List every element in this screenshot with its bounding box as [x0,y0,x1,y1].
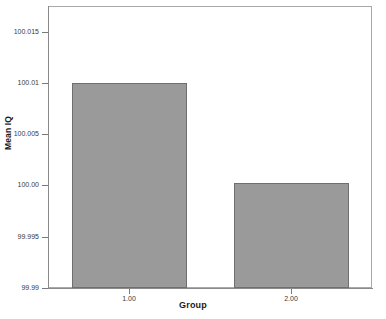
y-tick-mark [42,237,48,238]
x-tick-mark [129,289,130,294]
bar-chart: Mean IQ 99.9999.995100.00100.005100.0110… [0,0,386,319]
x-axis-title: Group [0,300,386,310]
y-tick-mark [42,185,48,186]
y-axis-line [48,6,49,289]
y-tick-label: 100.005 [14,130,39,137]
x-tick-mark [291,289,292,294]
x-axis-line [48,288,373,289]
y-tick-mark [42,288,48,289]
bar [234,183,349,288]
y-tick-mark [42,134,48,135]
bar [72,83,187,288]
y-tick-mark [42,83,48,84]
y-tick-label: 100.015 [14,28,39,35]
y-tick-label: 99.995 [18,233,39,240]
y-tick-label: 99.99 [21,284,39,291]
y-tick-mark [42,32,48,33]
y-tick-label: 100.00 [18,181,39,188]
y-axis-title: Mean IQ [3,103,13,163]
y-tick-label: 100.01 [18,79,39,86]
